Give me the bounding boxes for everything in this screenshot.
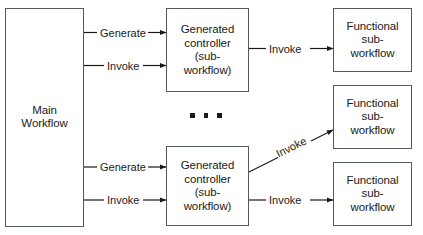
node-functional-subworkflow-middle[interactable]: Functional sub- workflow: [333, 85, 412, 149]
node-generated-controller-top-label: Generated controller (sub- workflow): [179, 23, 236, 77]
node-functional-subworkflow-bottom[interactable]: Functional sub- workflow: [333, 162, 412, 226]
node-main-workflow-label: Main Workflow: [19, 104, 69, 131]
node-functional-subworkflow-bottom-label: Functional sub- workflow: [344, 174, 400, 215]
ellipsis-dots: [190, 113, 222, 118]
ellipsis-dot: [190, 113, 195, 118]
node-functional-subworkflow-top-label: Functional sub- workflow: [344, 20, 400, 61]
node-functional-subworkflow-top[interactable]: Functional sub- workflow: [333, 8, 412, 72]
ellipsis-dot: [204, 113, 209, 118]
edge-label-controller-bottom-to-functional-bottom: Invoke: [268, 194, 302, 206]
node-main-workflow[interactable]: Main Workflow: [5, 8, 84, 227]
node-generated-controller-bottom-label: Generated controller (sub- workflow): [179, 159, 236, 213]
edge-label-main-to-controller-top-generate: Generate: [99, 27, 147, 39]
edge-label-main-to-controller-bottom-generate: Generate: [99, 161, 147, 173]
node-generated-controller-bottom[interactable]: Generated controller (sub- workflow): [166, 146, 249, 226]
edge-label-controller-top-to-functional-top: Invoke: [268, 43, 302, 55]
ellipsis-dot: [217, 113, 222, 118]
edge-label-main-to-controller-bottom-invoke: Invoke: [106, 194, 140, 206]
workflow-diagram: Main Workflow Generated controller (sub-…: [0, 0, 423, 235]
node-functional-subworkflow-middle-label: Functional sub- workflow: [344, 97, 400, 138]
node-generated-controller-top[interactable]: Generated controller (sub- workflow): [166, 8, 249, 92]
edge-label-main-to-controller-top-invoke: Invoke: [106, 60, 140, 72]
